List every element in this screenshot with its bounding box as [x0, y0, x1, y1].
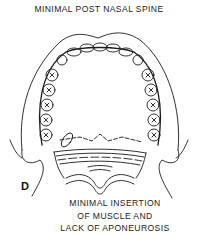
soft-palate-muscle-lines	[54, 149, 146, 171]
outer-lip-outline	[21, 33, 178, 150]
uvula-outline	[66, 175, 134, 188]
panel-letter: D	[21, 180, 29, 192]
palate-figure: MINIMAL POST NASAL SPINE	[0, 0, 198, 234]
left-molars	[40, 69, 58, 141]
right-cheek-outline	[159, 150, 179, 198]
right-molars	[142, 69, 160, 141]
bottom-label-line-3: LACK OF APONEUROSIS	[40, 222, 190, 234]
bottom-label-line-2: OF MUSCLE AND	[40, 210, 190, 223]
anterior-teeth	[57, 43, 143, 65]
muscle-insertion-label: MINIMAL INSERTION OF MUSCLE AND LACK OF …	[40, 197, 190, 234]
bottom-label-line-1: MINIMAL INSERTION	[40, 197, 190, 210]
